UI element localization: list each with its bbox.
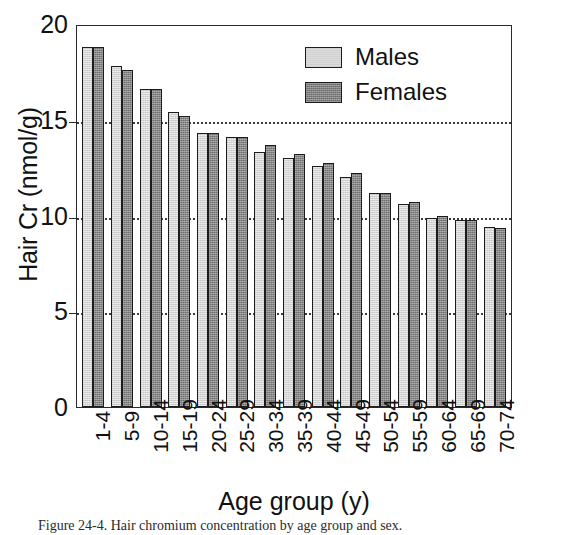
bar-males xyxy=(140,89,151,407)
bar-males xyxy=(484,227,495,407)
bar-females xyxy=(265,145,276,407)
legend-label-females: Females xyxy=(355,80,447,104)
bar-females xyxy=(351,173,362,407)
x-tick-cell: 35-39 xyxy=(280,408,309,486)
y-tick-mark xyxy=(69,122,78,123)
bar-females xyxy=(208,133,219,407)
x-tick-cell: 25-29 xyxy=(222,408,251,486)
x-tick-cell: 20-24 xyxy=(193,408,222,486)
bar-males xyxy=(398,204,409,407)
x-tick-label: 70-74 xyxy=(496,399,517,453)
x-tick-cell: 45-49 xyxy=(337,408,366,486)
legend-item-females: Females xyxy=(305,79,447,105)
x-tick-cell: 15-19 xyxy=(164,408,193,486)
x-tick-cell: 55-59 xyxy=(395,408,424,486)
x-tick-cell: 10-14 xyxy=(136,408,165,486)
bar-males xyxy=(111,66,122,407)
x-tick-cell: 65-69 xyxy=(452,408,481,486)
y-tick-label: 5 xyxy=(22,299,68,324)
x-axis-title: Age group (y) xyxy=(76,487,512,516)
x-tick-cell: 5-9 xyxy=(107,408,136,486)
chart-legend: Males Females xyxy=(305,44,447,114)
bar-chart-figure: Hair Cr (nmol/g) 20151050 Males Females … xyxy=(0,0,569,535)
y-tick-label: 20 xyxy=(22,12,68,37)
bar-females xyxy=(294,154,305,407)
bar-males xyxy=(82,47,93,407)
bar-group xyxy=(194,26,223,407)
bar-females xyxy=(151,89,162,407)
bar-males xyxy=(455,220,466,407)
bar-females xyxy=(380,193,391,407)
bar-males xyxy=(369,193,380,407)
legend-item-males: Males xyxy=(305,44,447,70)
bar-females xyxy=(437,216,448,408)
y-axis-tick-labels: 20151050 xyxy=(14,0,68,535)
bar-males xyxy=(340,177,351,407)
legend-label-males: Males xyxy=(355,45,419,69)
x-tick-cell: 30-34 xyxy=(251,408,280,486)
bar-males xyxy=(197,133,208,407)
y-tick-label: 10 xyxy=(22,204,68,229)
y-tick-mark xyxy=(69,313,78,314)
bar-females xyxy=(93,47,104,407)
bar-females xyxy=(466,220,477,407)
bar-group xyxy=(222,26,251,407)
x-tick-cell: 40-44 xyxy=(308,408,337,486)
y-tick-label: 0 xyxy=(22,395,68,420)
legend-swatch-females xyxy=(305,82,342,103)
bar-group xyxy=(165,26,194,407)
bar-females xyxy=(237,137,248,407)
bar-males xyxy=(226,137,237,407)
x-tick-cell: 50-54 xyxy=(366,408,395,486)
bar-females xyxy=(179,116,190,407)
bar-group xyxy=(136,26,165,407)
x-tick-cell: 60-64 xyxy=(424,408,453,486)
y-tick-mark xyxy=(69,218,78,219)
bar-group xyxy=(452,26,481,407)
bar-group xyxy=(480,26,509,407)
bar-group xyxy=(108,26,137,407)
bar-females xyxy=(323,163,334,407)
x-axis-tick-labels: 1-45-910-1415-1920-2425-2930-3435-3940-4… xyxy=(76,408,512,486)
bar-males xyxy=(168,112,179,407)
y-tick-label: 15 xyxy=(22,108,68,133)
figure-caption: Figure 24-4. Hair chromium concentration… xyxy=(38,518,538,535)
x-tick-cell: 1-4 xyxy=(78,408,107,486)
bar-males xyxy=(312,166,323,407)
plot-area: Males Females xyxy=(76,25,512,408)
bar-females xyxy=(122,70,133,407)
bar-males xyxy=(283,158,294,407)
bar-females xyxy=(495,228,506,407)
bar-females xyxy=(409,202,420,407)
legend-swatch-males xyxy=(305,47,342,68)
bar-group xyxy=(251,26,280,407)
x-tick-cell: 70-74 xyxy=(481,408,510,486)
bar-males xyxy=(254,152,265,407)
bar-group xyxy=(79,26,108,407)
bar-males xyxy=(426,218,437,407)
